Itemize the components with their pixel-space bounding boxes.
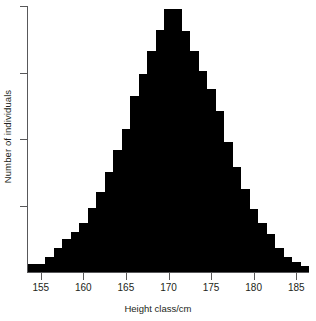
histogram-figure: Number of individuals 155160165170175180… bbox=[0, 0, 316, 321]
y-axis-label: Number of individuals bbox=[0, 0, 16, 272]
x-axis-tick bbox=[296, 273, 297, 280]
x-axis-tick bbox=[254, 273, 255, 280]
x-axis-tick-label: 175 bbox=[203, 282, 220, 293]
y-axis-tick bbox=[20, 6, 27, 7]
x-axis-tick-label: 185 bbox=[288, 282, 305, 293]
x-axis-tick bbox=[169, 273, 170, 280]
x-axis-tick bbox=[126, 273, 127, 280]
x-axis-label: Height class/cm bbox=[0, 303, 316, 314]
plot-area bbox=[28, 6, 309, 272]
histogram-bar bbox=[300, 266, 309, 272]
y-axis-tick bbox=[20, 73, 27, 74]
x-axis-tick-label: 165 bbox=[118, 282, 135, 293]
y-axis-tick bbox=[20, 139, 27, 140]
x-axis-tick-label: 155 bbox=[32, 282, 49, 293]
x-axis-label-text: Height class/cm bbox=[124, 303, 191, 314]
x-axis-tick-label: 170 bbox=[160, 282, 177, 293]
x-axis-tick bbox=[83, 273, 84, 280]
x-axis-tick-label: 180 bbox=[245, 282, 262, 293]
y-axis-label-text: Number of individuals bbox=[3, 89, 14, 182]
x-axis-tick bbox=[211, 273, 212, 280]
x-axis-tick-label: 160 bbox=[75, 282, 92, 293]
y-axis-tick bbox=[20, 206, 27, 207]
x-axis-tick bbox=[41, 273, 42, 280]
